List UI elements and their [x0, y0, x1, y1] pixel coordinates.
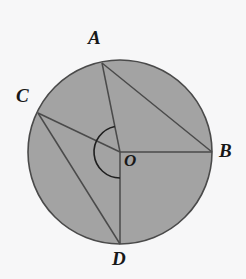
point-label-C: C — [16, 86, 29, 105]
point-label-A: A — [88, 28, 101, 47]
point-label-O: O — [124, 152, 136, 169]
point-label-B: B — [219, 141, 232, 160]
geometry-figure: A B C D O — [0, 0, 246, 279]
circle-diagram-svg — [0, 0, 246, 279]
point-label-D: D — [112, 249, 126, 268]
